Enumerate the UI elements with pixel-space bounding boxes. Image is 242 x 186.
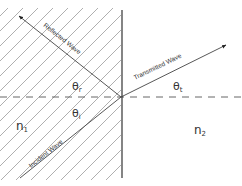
wave-interface-diagram: Reflected Wave Transmitted Wave Incident… bbox=[0, 0, 242, 186]
reflected-angle-symbol: θr bbox=[72, 80, 82, 94]
incident-angle-symbol: θi bbox=[72, 107, 81, 121]
transmitted-angle-symbol: θt bbox=[173, 80, 183, 94]
transmitted-wave-label: Transmitted Wave bbox=[132, 52, 182, 81]
medium-2-label: n2 bbox=[194, 123, 206, 138]
medium-1-label: n1 bbox=[16, 119, 28, 134]
incident-wave-label: Incident Wave bbox=[27, 138, 64, 169]
